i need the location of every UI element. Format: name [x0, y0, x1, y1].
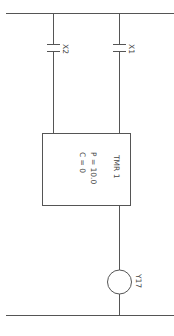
contact-x1-label: X1	[127, 44, 136, 54]
timer-preset: P = 10.0	[89, 152, 98, 185]
timer-block[interactable]: TMR 1 P = 10.0 C = 0	[43, 134, 131, 206]
contact-x1[interactable]: X1	[113, 13, 136, 133]
timer-current: C = 0	[78, 152, 87, 173]
contact-x2[interactable]: X2	[47, 13, 70, 133]
coil-label: Y17	[134, 273, 143, 288]
coil-y17[interactable]: Y17	[108, 270, 144, 294]
coil-icon	[108, 270, 132, 294]
contact-x2-label: X2	[61, 44, 70, 54]
timer-name: TMR 1	[112, 154, 121, 179]
ladder-diagram: X2 X1 TMR 1 P = 10.0 C = 0 Y17	[0, 0, 174, 336]
